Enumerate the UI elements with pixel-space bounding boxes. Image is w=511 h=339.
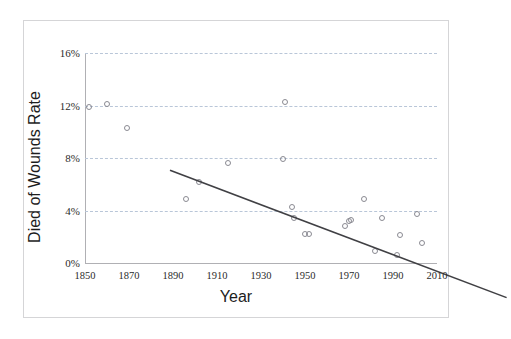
gridline-y-8% [85, 158, 437, 159]
data-point [397, 232, 403, 238]
data-point [124, 125, 130, 131]
data-point [394, 252, 400, 258]
data-point [183, 196, 189, 202]
data-point [348, 217, 354, 223]
x-tick-1910: 1910 [207, 270, 228, 281]
y-axis-title: Died of Wounds Rate [26, 52, 44, 282]
data-point [291, 215, 297, 221]
gridline-y-4% [85, 211, 437, 212]
x-axis-tick-labels: 185018701890191019301950197019902010 [0, 270, 472, 290]
x-tick-1850: 1850 [75, 270, 96, 281]
data-point [280, 156, 286, 162]
plot-area [85, 53, 437, 263]
y-tick-8%: 8% [65, 152, 80, 164]
x-tick-1990: 1990 [383, 270, 404, 281]
y-tick-0%: 0% [65, 257, 80, 269]
y-tick-16%: 16% [60, 47, 80, 59]
gridline-y-16% [85, 53, 437, 54]
data-point [419, 240, 425, 246]
x-tick-2010: 2010 [427, 270, 448, 281]
gridline-y-12% [85, 106, 437, 107]
data-point [372, 248, 378, 254]
data-point [361, 196, 367, 202]
x-axis-title: Year [0, 288, 472, 306]
data-point [414, 211, 420, 217]
x-axis-line [85, 263, 437, 264]
x-tick-1890: 1890 [163, 270, 184, 281]
y-tick-4%: 4% [65, 205, 80, 217]
x-tick-1970: 1970 [339, 270, 360, 281]
data-point [289, 204, 295, 210]
data-point [306, 231, 312, 237]
data-point [86, 104, 92, 110]
x-tick-1950: 1950 [295, 270, 316, 281]
data-point [379, 215, 385, 221]
data-point [282, 99, 288, 105]
y-tick-12%: 12% [60, 100, 80, 112]
data-point [225, 160, 231, 166]
data-point [342, 223, 348, 229]
x-tick-1870: 1870 [119, 270, 140, 281]
data-point [196, 179, 202, 185]
x-tick-1930: 1930 [251, 270, 272, 281]
